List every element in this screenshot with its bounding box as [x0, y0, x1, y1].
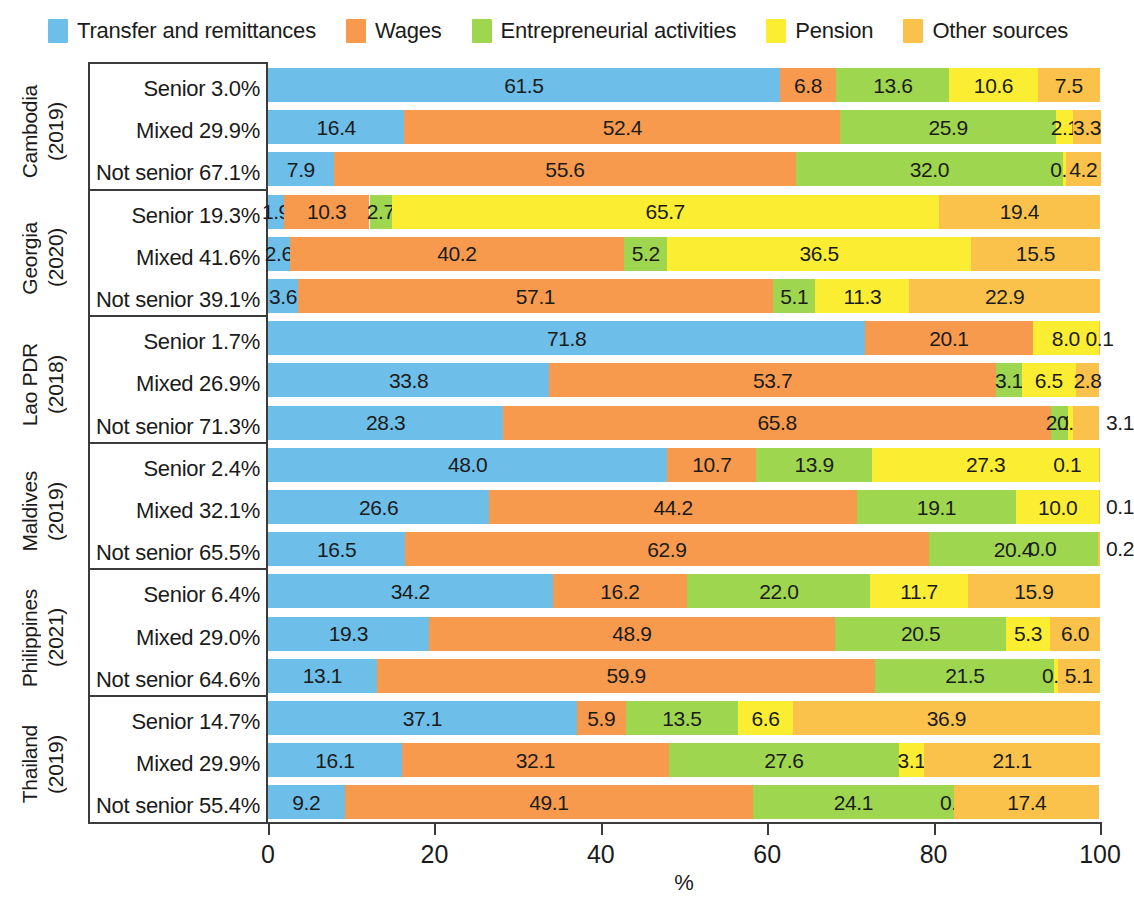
legend-item-other: Other sources — [903, 18, 1068, 44]
bar-value-label: 15.5 — [1016, 243, 1055, 264]
stacked-bar-row: 28.365.82.10.63.1 — [268, 406, 1100, 440]
plot-area: Cambodia(2019)Georgia(2020)Lao PDR(2018)… — [0, 62, 1116, 822]
bar-value-label: 6.0 — [1061, 623, 1089, 644]
group-separator — [88, 442, 268, 444]
bar-value-label: 19.1 — [917, 497, 956, 518]
row-label: Mixed 26.9% — [136, 363, 260, 405]
bar-segment-entrepreneurial: 19.1 — [857, 490, 1016, 524]
stacked-bar-row: 9.249.124.10.117.4 — [268, 785, 1100, 819]
bar-segment-entrepreneurial: 27.6 — [669, 743, 899, 777]
bar-value-label: 62.9 — [647, 539, 686, 560]
bar-segment-entrepreneurial: 13.6 — [836, 68, 949, 102]
bar-segment-other: 7.5 — [1038, 68, 1100, 102]
bar-value-label: 59.9 — [607, 665, 646, 686]
bar-value-label: 10.3 — [307, 201, 346, 222]
country-year: (2020) — [44, 228, 68, 287]
bar-value-label: 10.0 — [1038, 497, 1077, 518]
bar-segment-other: 2.8 — [1076, 363, 1099, 397]
stacked-bar-row: 34.216.222.011.715.9 — [268, 574, 1100, 608]
country-year: (2019) — [44, 735, 68, 794]
group-separator — [88, 695, 268, 697]
legend-item-pension: Pension — [766, 18, 873, 44]
bar-value-label: 5.9 — [587, 708, 615, 729]
stacked-bar-row: 16.452.425.92.13.3 — [268, 110, 1100, 144]
bar-value-label: 13.9 — [795, 454, 834, 475]
bar-segment-transfer: 28.3 — [268, 406, 503, 440]
legend-label-other: Other sources — [932, 18, 1068, 44]
bar-segment-entrepreneurial: 13.9 — [756, 448, 872, 482]
bar-segment-pension: 3.1 — [899, 743, 925, 777]
legend-label-wages: Wages — [375, 18, 442, 44]
group-separator — [88, 189, 268, 191]
bar-segment-transfer: 16.4 — [268, 110, 404, 144]
bar-segment-transfer: 16.5 — [268, 532, 405, 566]
bars-container: 61.56.813.610.67.516.452.425.92.13.37.95… — [268, 62, 1100, 852]
row-label: Senior 6.4% — [143, 574, 260, 616]
bar-segment-entrepreneurial: 20.5 — [835, 617, 1006, 651]
bar-value-label: 20.5 — [901, 623, 940, 644]
bar-value-label: 19.4 — [1000, 201, 1039, 222]
bar-segment-transfer: 7.9 — [268, 152, 334, 186]
x-axis-tick-label: 100 — [1079, 840, 1121, 869]
bar-segment-other: 15.5 — [971, 237, 1100, 271]
bar-segment-wages: 10.7 — [667, 448, 756, 482]
x-axis-tick — [434, 822, 436, 835]
bar-value-label: 2.8 — [1074, 370, 1102, 391]
stacked-bar-row: 2.640.25.236.515.5 — [268, 237, 1100, 271]
bar-value-label: 49.1 — [529, 792, 568, 813]
stacked-bar-row: 33.853.73.16.52.8 — [268, 363, 1100, 397]
bar-segment-entrepreneurial: 25.9 — [840, 110, 1055, 144]
row-label: Mixed 32.1% — [136, 490, 260, 532]
bar-segment-transfer: 1.9 — [268, 195, 284, 229]
x-axis-tick-label: 60 — [753, 840, 781, 869]
bar-value-label: 37.1 — [403, 708, 442, 729]
country-label-cambodia: Cambodia(2019) — [0, 68, 86, 195]
country-label-thailand: Thailand(2019) — [0, 701, 86, 828]
bar-value-label: 20.1 — [929, 328, 968, 349]
row-label: Senior 1.7% — [143, 321, 260, 363]
bar-segment-pension: 11.3 — [815, 279, 909, 313]
group-separator — [88, 568, 268, 570]
stacked-bar-row: 19.348.920.55.36.0 — [268, 617, 1100, 651]
bar-value-label: 6.8 — [794, 75, 822, 96]
row-label: Senior 2.4% — [143, 448, 260, 490]
country-year: (2021) — [44, 608, 68, 667]
bar-value-label: 36.5 — [800, 243, 839, 264]
x-axis-tick — [767, 822, 769, 835]
bar-segment-other: 5.1 — [1058, 659, 1100, 693]
bar-value-label: 11.3 — [844, 286, 882, 307]
bar-value-label: 65.7 — [646, 201, 685, 222]
bar-segment-entrepreneurial: 21.5 — [875, 659, 1054, 693]
bar-value-label-outside: 3.1 — [1106, 406, 1134, 440]
legend-label-transfer: Transfer and remittances — [77, 18, 316, 44]
row-label: Senior 19.3% — [132, 195, 261, 237]
stacked-bar-row: 37.15.913.56.636.9 — [268, 701, 1100, 735]
bar-segment-other: 4.2 — [1066, 152, 1101, 186]
bar-segment-other: 19.4 — [939, 195, 1100, 229]
bar-segment-other: 15.9 — [968, 574, 1100, 608]
bar-segment-other — [1073, 406, 1099, 440]
bar-segment-wages: 62.9 — [405, 532, 928, 566]
bar-segment-transfer: 61.5 — [268, 68, 780, 102]
bar-segment-pension: 10.0 — [1016, 490, 1099, 524]
country-year: (2019) — [44, 482, 68, 541]
country-label-georgia: Georgia(2020) — [0, 195, 86, 322]
bar-segment-other — [1099, 490, 1100, 524]
country-label-maldives: Maldives(2019) — [0, 448, 86, 575]
bar-segment-wages: 32.1 — [402, 743, 669, 777]
bar-segment-wages: 6.8 — [780, 68, 837, 102]
stacked-bar-chart: Cambodia(2019)Georgia(2020)Lao PDR(2018)… — [0, 62, 1116, 922]
bar-value-label: 16.4 — [317, 117, 356, 138]
bar-value-label: 5.2 — [632, 243, 660, 264]
bar-segment-pension: 11.7 — [870, 574, 967, 608]
country-name: Lao PDR — [18, 343, 42, 426]
group-separator — [88, 62, 268, 64]
bar-segment-wages: 48.9 — [429, 617, 836, 651]
bar-segment-pension: 6.6 — [738, 701, 793, 735]
country-label-lao-pdr: Lao PDR(2018) — [0, 321, 86, 448]
bar-value-label: 33.8 — [389, 370, 428, 391]
bar-segment-other: 22.9 — [909, 279, 1100, 313]
bar-segment-other: 3.3 — [1073, 110, 1100, 144]
bar-segment-transfer: 26.6 — [268, 490, 489, 524]
bar-value-label: 25.9 — [929, 117, 968, 138]
